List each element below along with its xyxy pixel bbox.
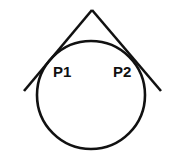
label-p1: P1: [53, 63, 71, 80]
tangent-diagram: P1 P2: [0, 0, 173, 167]
label-p2: P2: [113, 63, 131, 80]
